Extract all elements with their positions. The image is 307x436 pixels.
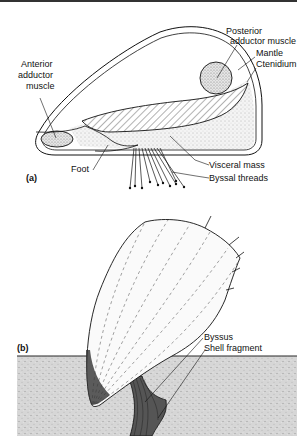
label-mantle: Mantle xyxy=(256,48,283,58)
label-anterior-adductor-line2: adductor xyxy=(18,70,53,80)
label-anterior-adductor-line3: muscle xyxy=(26,81,55,91)
label-posterior-adductor-line2: adductor muscle xyxy=(230,36,296,46)
label-posterior-adductor-line1: Posterior xyxy=(226,26,262,36)
posterior-adductor-muscle xyxy=(200,62,232,94)
label-visceral-mass: Visceral mass xyxy=(209,160,265,170)
label-ctenidium: Ctenidium xyxy=(256,59,297,69)
label-byssal-threads: Byssal threads xyxy=(209,173,268,183)
panel-a-tag: (a) xyxy=(26,173,37,183)
label-shell-fragment: Shell fragment xyxy=(204,343,262,353)
label-byssus: Byssus xyxy=(204,332,233,342)
label-foot: Foot xyxy=(71,164,89,174)
panel-b-tag: (b) xyxy=(17,343,29,353)
label-anterior-adductor-line1: Anterior xyxy=(21,59,53,69)
panel-b-drawing xyxy=(17,216,297,436)
anterior-adductor-muscle xyxy=(41,131,73,147)
